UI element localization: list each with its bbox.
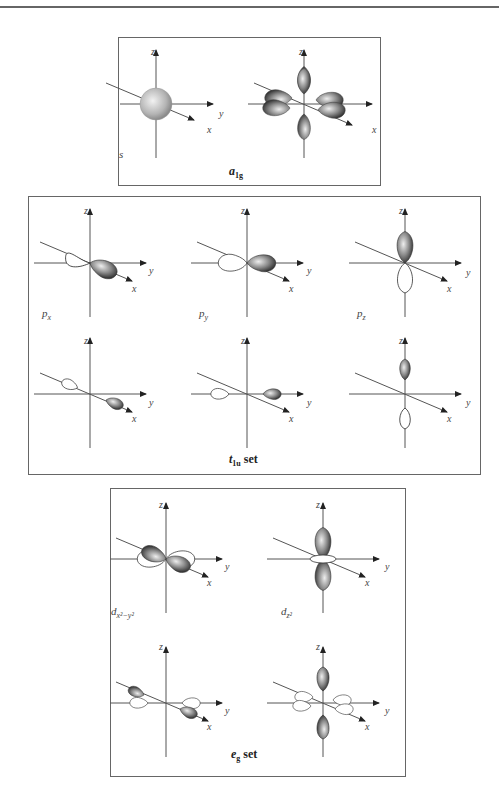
axis-label-z: z: [159, 499, 163, 510]
axis-label-z: z: [399, 205, 403, 216]
orbital-label-dx2-y2: dx²−y²: [111, 605, 134, 620]
axis-label-y: y: [307, 265, 311, 276]
panel-eg: z y x z y x dx²−y² dz² z y x z y x eg se…: [110, 488, 406, 777]
py-orbital-diagram: [191, 209, 303, 317]
ligand-y-diagram: [191, 338, 303, 448]
pz-orbital-diagram: [349, 209, 461, 317]
axis-label-x: x: [365, 721, 369, 732]
axis-label-y: y: [149, 265, 153, 276]
axis-label-x: x: [132, 283, 136, 294]
axis-label-y: y: [219, 108, 223, 119]
axis-label-x: x: [289, 283, 293, 294]
axis-label-z: z: [316, 499, 320, 510]
caption-a1g: a1g: [229, 164, 243, 180]
axis-label-z: z: [84, 205, 88, 216]
axis-label-z: z: [241, 335, 245, 346]
t1u-diagrams: [29, 197, 482, 476]
dx2-y2-orbital-diagram: [110, 503, 222, 613]
dz2-torus: [310, 555, 336, 563]
px-orbital-diagram: [34, 209, 146, 317]
a1g-diagrams: [119, 38, 382, 187]
orbital-label-dz2: dz²: [281, 605, 292, 620]
ligand-x2-y2-diagram: [110, 647, 222, 757]
axis-label-y: y: [225, 705, 229, 716]
axis-label-y: y: [385, 561, 389, 572]
s-orbital-diagram: [106, 50, 213, 158]
orbital-label-pz: pz: [357, 307, 366, 322]
axis-label-z: z: [399, 335, 403, 346]
caption-t1u: t1u set: [229, 452, 258, 468]
axis-label-x: x: [207, 577, 211, 588]
axis-label-y: y: [466, 267, 470, 278]
panel-a1g: z y x s z x a1g: [118, 37, 381, 186]
axis-label-y: y: [385, 705, 389, 716]
axis-label-z: z: [159, 641, 163, 652]
caption-eg: eg set: [231, 747, 257, 763]
axis-label-z-2: z: [299, 46, 303, 57]
ligand-a1g-diagram: [248, 50, 372, 158]
axis-label-x: x: [365, 577, 369, 588]
eg-diagrams: [111, 489, 407, 778]
axis-label-z: z: [316, 641, 320, 652]
axis-label-x-2: x: [372, 124, 376, 135]
ligand-x-diagram: [34, 338, 146, 448]
axis-label-z: z: [151, 46, 155, 57]
axis-label-y: y: [149, 397, 153, 408]
ligand-z-diagram: [349, 338, 461, 448]
panel-t1u: z y x z y x z y x px py pz z y x z y x z…: [28, 196, 481, 475]
axis-label-x: x: [132, 413, 136, 424]
orbital-label-px: px: [42, 307, 51, 322]
header-rule: [0, 6, 499, 8]
axis-label-x: x: [447, 413, 451, 424]
axis-label-x: x: [447, 283, 451, 294]
s-sphere: [140, 88, 172, 120]
axis-label-x: x: [207, 721, 211, 732]
axis-label-y: y: [225, 561, 229, 572]
axis-label-x: x: [207, 124, 211, 135]
axis-label-z: z: [84, 335, 88, 346]
axis-label-y: y: [307, 397, 311, 408]
ligand-z2-diagram: [267, 647, 379, 757]
orbital-label-s: s: [119, 148, 123, 160]
orbital-label-py: py: [199, 307, 208, 322]
dz2-orbital-diagram: [267, 503, 379, 613]
axis-label-y: y: [466, 397, 470, 408]
axis-label-z: z: [241, 205, 245, 216]
axis-label-x: x: [289, 413, 293, 424]
